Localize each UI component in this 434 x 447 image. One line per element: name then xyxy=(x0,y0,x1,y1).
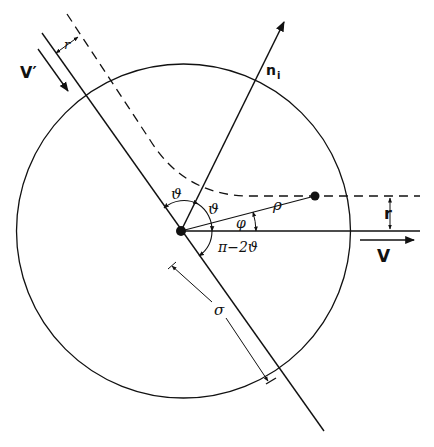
phi-arc xyxy=(253,212,256,231)
pi-minus-2theta-arc xyxy=(199,231,212,256)
label-n-sub: i xyxy=(277,70,280,81)
label-theta-left: ϑ xyxy=(171,185,182,203)
label-sigma: σ xyxy=(214,301,225,319)
label-r-top: r xyxy=(64,37,71,52)
scattering-diagram: V′ r n i ϑ ϑ φ ρ π−2ϑ σ r V xyxy=(0,0,434,447)
normal-vector-ni xyxy=(181,22,284,231)
sigma-dimension-b xyxy=(226,318,268,381)
center-dot xyxy=(176,226,186,236)
label-pi-minus-2theta: π−2ϑ xyxy=(217,239,258,255)
label-v-prime: V′ xyxy=(20,63,37,82)
v-prime-arrow xyxy=(38,49,68,91)
label-v: V xyxy=(377,246,391,266)
label-n: n xyxy=(266,62,276,78)
rho-line xyxy=(181,196,315,231)
label-phi: φ xyxy=(236,215,246,231)
label-rho: ρ xyxy=(272,196,282,214)
particle-dot xyxy=(311,192,320,201)
label-r-right: r xyxy=(384,204,392,223)
label-theta-right: ϑ xyxy=(208,200,219,218)
sigma-dimension-a xyxy=(172,266,212,302)
